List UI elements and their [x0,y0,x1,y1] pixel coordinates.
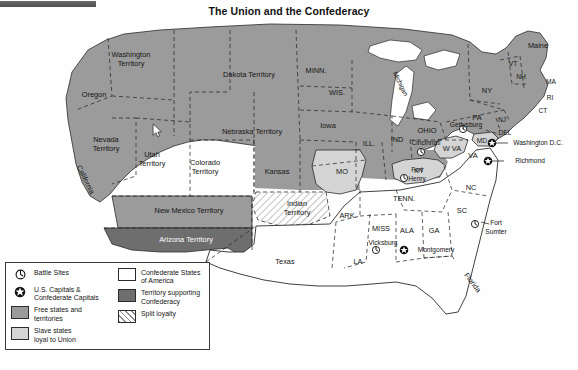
legend-item-slave-loyal[interactable]: Slave statesloyal to Union [11,327,116,344]
legend-swatch-territory-supporting [118,289,136,302]
map-canvas: The Union and the Confederacy [0,0,578,370]
legend-label-battle-sites: Battle Sites [34,268,69,277]
legend-label-confederate-states: Confederate Statesof America [141,268,200,285]
legend-swatch-confederate-states [118,268,136,281]
legend-label-capitals: U.S. Capitals &Confederate Capitals [34,285,99,302]
battle-site-marker-gettysburg [459,125,468,134]
legend-item-confederate-states[interactable]: Confederate Statesof America [118,268,208,285]
legend-swatch-slave-loyal [11,327,29,340]
legend-column-right: Confederate Statesof America Territory s… [118,268,208,327]
battle-site-marker-vicksburg [372,246,381,255]
legend-label-territory-supporting: Territory supportingConfederacy [141,289,200,306]
region-indian-territory [252,192,330,226]
legend-column-left: Battle Sites U.S. Capitals &Confederate … [11,268,116,348]
legend-swatch-free-states [11,306,29,319]
battle-site-marker-cincinnati [417,148,426,157]
legend-label-free-states: Free states andterritories [34,306,82,323]
legend-swatch-split-loyalty [118,310,136,323]
legend-item-free-states[interactable]: Free states andterritories [11,306,116,323]
legend-item-capitals[interactable]: U.S. Capitals &Confederate Capitals [11,285,116,302]
legend-label-slave-loyal: Slave statesloyal to Union [34,327,76,344]
battle-site-icon [11,268,29,281]
battle-site-marker-fort-sumter [471,220,480,229]
legend-item-territory-supporting[interactable]: Territory supportingConfederacy [118,289,208,306]
battle-site-marker-fort-henry [400,174,409,183]
capital-marker-richmond [483,156,493,166]
legend-item-split-loyalty[interactable]: Split loyalty [118,310,208,323]
capital-marker-montgomery [399,245,409,255]
legend-label-split-loyalty: Split loyalty [141,310,176,319]
mouse-cursor [152,123,163,138]
map-legend: Battle Sites U.S. Capitals &Confederate … [5,262,210,350]
capital-star-icon [11,285,29,298]
region-arizona-territory [104,228,252,254]
legend-item-battle-sites[interactable]: Battle Sites [11,268,116,281]
capital-marker-washington-dc [487,138,497,148]
